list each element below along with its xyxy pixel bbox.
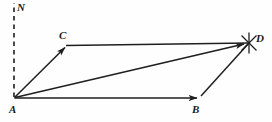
point-label-a: A — [9, 104, 16, 115]
figure-root: N C D A B — [0, 0, 272, 122]
edge-BD — [201, 43, 249, 96]
point-label-c: C — [59, 30, 66, 41]
edge-CD — [66, 43, 249, 46]
vector-AD-resultant — [15, 44, 244, 98]
vector-parallelogram-diagram — [0, 0, 272, 122]
vector-AC — [15, 48, 66, 98]
point-label-north: N — [17, 2, 25, 13]
point-label-d: D — [256, 33, 264, 44]
point-label-b: B — [192, 104, 199, 115]
